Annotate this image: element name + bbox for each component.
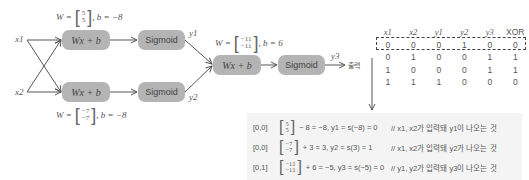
cell: 1	[401, 77, 427, 87]
left-bracket: [	[279, 139, 283, 155]
right-bracket: ]	[291, 119, 295, 135]
weight-vector: −7 −7	[82, 108, 89, 122]
cell: 1	[503, 52, 529, 62]
calc-expression: + 3 = 3, y2 = s(3) = 1	[303, 143, 373, 152]
cell: 0	[426, 52, 452, 62]
weight-prefix: W =	[56, 110, 72, 120]
cell: 0	[401, 65, 427, 75]
y2-label: y2	[189, 92, 198, 102]
y1-label: y1	[189, 28, 198, 38]
cell: 1	[477, 65, 503, 75]
table-header: x1 x2 y1 y2 y3 XOR	[375, 26, 529, 39]
table-row: 1 0 0 0 1 1	[375, 64, 529, 77]
cell: 0	[503, 77, 529, 87]
calc-comment: // y1, y2가 입력돼 y3이 나오는 것	[391, 162, 497, 173]
output-weight-equation: W = [ −11 −11 ] , b = 6	[215, 34, 283, 52]
top-weight-equation: W = [ 5 5 ] , b = −8	[56, 8, 123, 26]
cell: 1	[375, 65, 401, 75]
input-point: [0,1]	[253, 163, 279, 172]
cell: 0	[452, 52, 478, 62]
cell: 0	[452, 77, 478, 87]
cell: 0	[375, 40, 401, 50]
weight-2: −11	[241, 43, 252, 50]
header-x1: x1	[375, 27, 401, 37]
cell: 0	[375, 52, 401, 62]
table-row: 0 0 0 1 0 0	[375, 39, 529, 52]
table-row: 1 1 1 0 0 0	[375, 76, 529, 89]
cell: 1	[477, 52, 503, 62]
input-point: [0,0]	[253, 143, 279, 152]
cell: 1	[375, 77, 401, 87]
output-sigmoid-node: Sigmoid	[278, 55, 325, 75]
weight-2: −7	[82, 115, 89, 122]
calculation-box: [0,0] [ 5 5 ] − 8 = −8, y1 = s(−8) = 0 /…	[247, 113, 522, 180]
weight-vector: −11 −11	[285, 161, 295, 174]
weight-2: 5	[285, 127, 288, 134]
bottom-sigmoid-node: Sigmoid	[138, 82, 185, 102]
calc-expression: + 6 = −5, y3 = s(−5) = 0	[306, 163, 384, 172]
cell: 0	[477, 40, 503, 50]
cell: 0	[452, 65, 478, 75]
input-x1-label: x1	[15, 34, 24, 44]
output-linear-node: Wx + b	[213, 55, 261, 75]
weight-2: −11	[285, 167, 295, 174]
input-point: [0,0]	[253, 123, 279, 132]
truth-table: x1 x2 y1 y2 y3 XOR 0 0 0 1 0 0 0 1 0 0 1…	[375, 26, 529, 89]
calc-comment: // x1, x2가 입력돼 y1이 나오는 것	[391, 122, 497, 133]
input-x2-label: x2	[15, 87, 24, 97]
header-y2: y2	[452, 27, 478, 37]
table-row: 0 1 0 0 1 1	[375, 51, 529, 64]
header-y1: y1	[426, 27, 452, 37]
cell: 0	[426, 65, 452, 75]
calculation-row: [0,0] [ 5 5 ] − 8 = −8, y1 = s(−8) = 0 /…	[253, 119, 378, 135]
cell: 1	[401, 52, 427, 62]
header-y3: y3	[477, 27, 503, 37]
cell: 0	[503, 40, 529, 50]
right-bracket: ]	[297, 159, 301, 175]
calc-expression: − 8 = −8, y1 = s(−8) = 0	[299, 123, 377, 132]
right-bracket: ]	[294, 139, 298, 155]
weight-2: 5	[82, 17, 86, 24]
bottom-linear-node: Wx + b	[62, 82, 110, 102]
weight-prefix: W =	[215, 38, 231, 48]
left-bracket: [	[75, 8, 80, 26]
left-bracket: [	[75, 106, 80, 124]
y3-label: y3	[331, 51, 340, 61]
left-bracket: [	[279, 159, 283, 175]
cell: 0	[426, 40, 452, 50]
cell: 0	[477, 77, 503, 87]
calculation-row: [0,1] [ −11 −11 ] + 6 = −5, y3 = s(−5) =…	[253, 159, 384, 175]
header-x2: x2	[401, 27, 427, 37]
cell: 0	[401, 40, 427, 50]
weight-prefix: W =	[56, 12, 72, 22]
weight-vector: 5 5	[285, 121, 288, 134]
weight-vector: 5 5	[82, 10, 86, 24]
calc-comment: // x1, x2가 입력돼 y2가 나오는 것	[391, 142, 497, 153]
bias-text: , b = −8	[96, 110, 126, 120]
cell: 1	[426, 77, 452, 87]
cell: 1	[503, 65, 529, 75]
output-label: 출력	[348, 60, 360, 70]
bias-text: , b = 6	[259, 38, 283, 48]
bottom-weight-equation: W = [ −7 −7 ] , b = −8	[56, 106, 126, 124]
bias-text: , b = −8	[92, 12, 122, 22]
cell: 1	[452, 40, 478, 50]
header-xor: XOR	[503, 27, 529, 37]
weight-vector: −11 −11	[241, 36, 252, 50]
left-bracket: [	[279, 119, 283, 135]
weight-vector: −7 −7	[285, 141, 292, 154]
weight-2: −7	[285, 147, 292, 154]
top-sigmoid-node: Sigmoid	[138, 30, 185, 50]
calculation-row: [0,0] [ −7 −7 ] + 3 = 3, y2 = s(3) = 1 /…	[253, 139, 372, 155]
top-linear-node: Wx + b	[62, 30, 110, 50]
left-bracket: [	[234, 34, 239, 52]
